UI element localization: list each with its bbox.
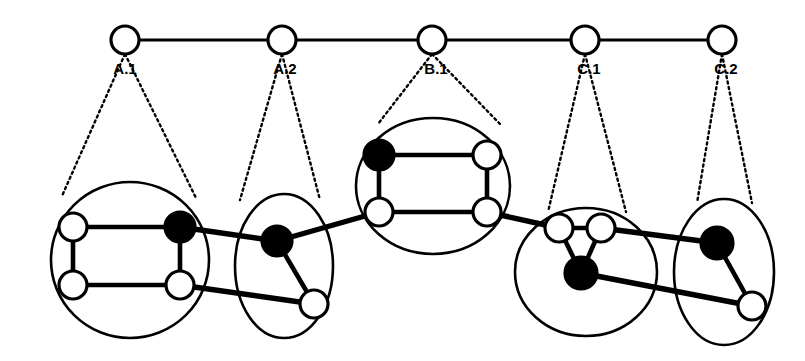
- leaf-node-b1-tr[interactable]: [473, 141, 501, 169]
- leaf-node-a1-bl[interactable]: [59, 271, 87, 299]
- leaf-node-a2-bot[interactable]: [300, 290, 328, 318]
- abstract-node-C-1[interactable]: [571, 26, 599, 54]
- abstract-node-B-1[interactable]: [418, 26, 446, 54]
- leaf-node-c2-top[interactable]: [701, 227, 733, 259]
- leaf-node-c1-bot[interactable]: [565, 257, 597, 289]
- leaf-node-a1-br[interactable]: [166, 271, 194, 299]
- leaf-node-c1-tl[interactable]: [545, 214, 573, 242]
- cluster-hull-group: [51, 118, 774, 345]
- inter-cluster-edge-group: [180, 212, 752, 306]
- diagram-canvas: A.1A.2B.1C.1C.2: [0, 0, 805, 361]
- cluster-label-C-1: C.1: [577, 60, 600, 77]
- cluster-hull-C-2[interactable]: [674, 199, 774, 345]
- cluster-label-A-2: A.2: [273, 60, 296, 77]
- abstract-node-C-2[interactable]: [708, 26, 736, 54]
- clustered-graph-diagram: A.1A.2B.1C.1C.2: [0, 0, 805, 361]
- leader-line-group: [62, 54, 752, 212]
- leaf-node-a1-tl[interactable]: [59, 213, 87, 241]
- cluster-label-A-1: A.1: [113, 60, 136, 77]
- leader-line-C-1-1: [585, 54, 626, 212]
- cluster-label-group: A.1A.2B.1C.1C.2: [113, 60, 737, 77]
- leaf-node-c1-tr[interactable]: [587, 214, 615, 242]
- leaf-node-c2-bot[interactable]: [738, 292, 766, 320]
- inter-cluster-edge-c1-bot-c2-bot: [581, 273, 752, 306]
- abstract-node-A-2[interactable]: [268, 26, 296, 54]
- leaf-node-group: [59, 140, 766, 320]
- abstract-node-A-1[interactable]: [111, 26, 139, 54]
- leaf-node-a2-top[interactable]: [262, 226, 292, 256]
- leaf-node-b1-bl[interactable]: [365, 198, 393, 226]
- leaf-node-b1-tl[interactable]: [364, 140, 394, 170]
- leaf-node-b1-br[interactable]: [473, 198, 501, 226]
- cluster-label-B-1: B.1: [424, 60, 447, 77]
- leader-line-C-1-0: [548, 54, 585, 212]
- leaf-node-a1-tr[interactable]: [165, 212, 195, 242]
- cluster-label-C-2: C.2: [714, 60, 737, 77]
